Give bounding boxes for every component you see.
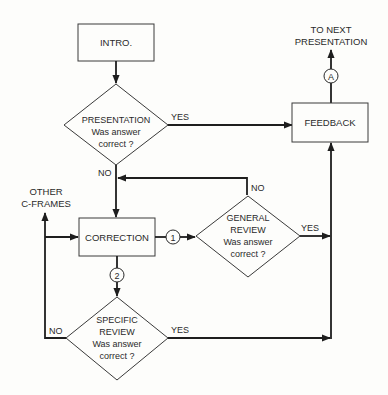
connector-a-label: A [328, 72, 334, 82]
node-specific-review-decision: SPECIFIC REVIEW Was answer correct ? [66, 297, 168, 380]
terminal-other-cframes: OTHER C-FRAMES [21, 186, 71, 209]
presentation-title: PRESENTATION [82, 115, 151, 125]
specific-no-label: NO [49, 326, 63, 336]
specific-review-title-2: REVIEW [99, 327, 135, 337]
specific-yes-label: YES [171, 325, 189, 335]
node-intro: INTRO. [78, 24, 154, 61]
node-presentation-decision: PRESENTATION Was answer correct ? [64, 84, 168, 165]
general-no-label: NO [251, 183, 265, 193]
specific-review-question-1: Was answer [92, 339, 141, 349]
connector-1-label: 1 [170, 233, 175, 243]
other-cframes-line1: OTHER [29, 186, 62, 197]
node-feedback: FEEDBACK [292, 103, 368, 142]
next-presentation-line2: PRESENTATION [295, 36, 368, 47]
presentation-question-2: correct ? [98, 139, 133, 149]
connector-a: A [324, 69, 338, 83]
general-review-question-1: Was answer [223, 237, 272, 247]
edge-general-no [118, 178, 247, 195]
specific-review-title-1: SPECIFIC [96, 315, 138, 325]
feedback-label: FEEDBACK [304, 117, 356, 128]
intro-label: INTRO. [100, 37, 132, 48]
presentation-yes-label: YES [171, 112, 189, 122]
presentation-no-label: NO [98, 168, 112, 178]
next-presentation-line1: TO NEXT [311, 24, 352, 35]
general-review-question-2: correct ? [230, 249, 265, 259]
node-general-review-decision: GENERAL REVIEW Was answer correct ? [196, 196, 300, 277]
correction-label: CORRECTION [85, 232, 149, 243]
general-review-title-2: REVIEW [230, 225, 266, 235]
terminal-next-presentation: TO NEXT PRESENTATION [295, 24, 368, 47]
general-yes-label: YES [301, 223, 319, 233]
connector-1: 1 [166, 230, 180, 244]
specific-review-question-2: correct ? [99, 351, 134, 361]
edge-specific-no [45, 213, 66, 338]
other-cframes-line2: C-FRAMES [21, 198, 71, 209]
node-correction: CORRECTION [79, 218, 155, 256]
connector-2: 2 [110, 268, 124, 282]
presentation-question-1: Was answer [91, 127, 140, 137]
general-review-title-1: GENERAL [226, 213, 269, 223]
connector-2-label: 2 [114, 271, 119, 281]
flowchart: TO NEXT PRESENTATION A INTRO. PRESENTATI… [0, 0, 388, 395]
